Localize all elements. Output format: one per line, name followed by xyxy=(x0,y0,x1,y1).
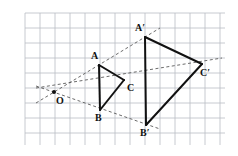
segment-AB xyxy=(99,65,100,110)
vertex-label-A2: A′ xyxy=(135,23,145,33)
point-marker-O xyxy=(52,90,56,94)
vertex-points-layer xyxy=(52,90,56,94)
triangle-edges-layer xyxy=(99,37,202,125)
figure-canvas xyxy=(0,0,238,156)
segment-A2B2 xyxy=(145,37,146,125)
vertex-label-C2: C′ xyxy=(200,68,210,78)
vertex-label-O: O xyxy=(56,96,64,106)
dilation-figure: OABCA′B′C′ xyxy=(0,0,238,156)
vertex-label-A: A xyxy=(91,51,98,61)
vertex-label-B: B xyxy=(95,113,102,123)
segment-CA xyxy=(99,65,124,80)
segment-BC xyxy=(100,80,124,110)
segment-C2A2 xyxy=(145,37,202,64)
grid-layer xyxy=(25,13,225,145)
vertex-label-C: C xyxy=(127,83,134,93)
vertex-label-B2: B′ xyxy=(140,128,149,138)
